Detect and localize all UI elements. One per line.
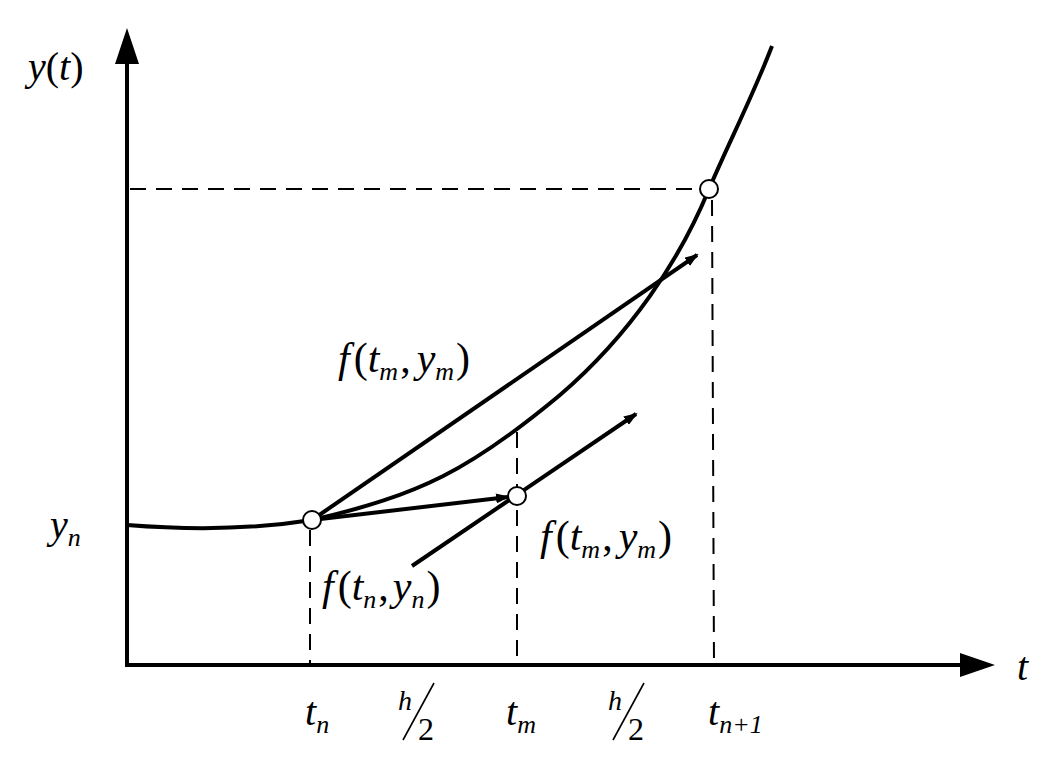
slope-label-middle: f(tm,ym): [540, 513, 672, 564]
x-tick-label-tn1: tn+1: [708, 689, 763, 739]
x-tick-label-tn: tn: [305, 689, 329, 739]
midpoint-marker: [508, 487, 526, 505]
midpoint-method-diagram: y(t) t yn tn tm tn+1 h 2 h 2 f(tm,ym) f(…: [0, 0, 1063, 757]
x-axis-arrowhead-icon: [960, 653, 995, 677]
x-axis: [125, 653, 995, 677]
slope-label-upper: f(tm,ym): [338, 335, 470, 386]
slope-label-lower: f(tn,yn): [322, 563, 441, 614]
interval-label-2: h 2: [608, 683, 644, 747]
y-axis: [115, 28, 139, 665]
slope-arrow-full-step: [312, 255, 697, 520]
start-point-marker: [303, 511, 321, 529]
y-axis-label: y(t): [24, 44, 84, 89]
slope-arrows: [312, 255, 697, 566]
x-axis-label: t: [1017, 644, 1029, 689]
svg-text:2: 2: [418, 711, 434, 747]
end-point-marker: [700, 180, 718, 198]
interval-label-1: h 2: [398, 683, 434, 747]
x-tick-label-tm: tm: [506, 689, 536, 739]
svg-text:h: h: [608, 685, 622, 716]
svg-text:2: 2: [628, 711, 644, 747]
dashed-vertical-tn1: [712, 200, 714, 665]
solution-curve: [127, 46, 772, 528]
svg-text:h: h: [398, 685, 412, 716]
y-axis-arrowhead-icon: [115, 28, 139, 64]
y-tick-label-yn: yn: [46, 502, 81, 552]
